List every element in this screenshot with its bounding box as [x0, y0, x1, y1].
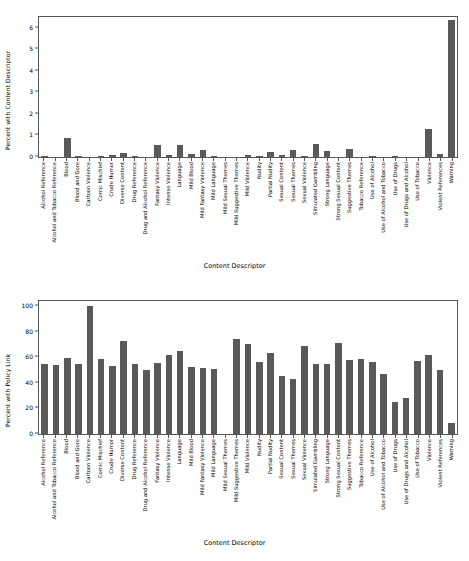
x-tick-label: Mild Fantasy Violence	[200, 162, 205, 218]
x-tick-mark	[361, 158, 362, 161]
bar-cell	[321, 17, 332, 157]
x-label-cell: Mild Fantasy Violence	[197, 439, 208, 495]
x-tick-cell	[265, 158, 276, 161]
bar-cell	[220, 17, 231, 157]
bar	[177, 351, 184, 434]
x-label-cell: Drug Reference	[129, 162, 140, 202]
bar-cell	[95, 301, 106, 434]
y-tick-label: 1	[11, 131, 33, 138]
bar-cell	[175, 301, 186, 434]
bar	[211, 156, 218, 157]
bar	[211, 369, 218, 434]
bar-cell	[276, 17, 287, 157]
x-tick-label: Strong Language	[325, 439, 330, 483]
x-tick-label: Suggestive Themes	[347, 439, 352, 490]
x-tick-label: Violence	[427, 439, 432, 461]
x-tick-label: Alcohol Reference	[41, 162, 46, 209]
x-tick-mark	[259, 158, 260, 161]
bar-cell	[107, 301, 118, 434]
x-axis-title-top: Content Descriptor	[0, 262, 469, 270]
x-tick-mark	[327, 158, 328, 161]
x-tick-label: Partial Nudity	[268, 162, 273, 197]
x-tick-mark	[259, 435, 260, 438]
x-tick-mark	[349, 435, 350, 438]
x-label-cell: Mild Sexual Themes	[220, 162, 231, 214]
bar-cell	[389, 301, 400, 434]
x-label-cell: Warning	[446, 439, 457, 460]
x-tick-label: Sexual Violence	[302, 439, 307, 480]
bar-series-bottom	[39, 301, 457, 434]
x-tick-cell	[83, 435, 94, 438]
x-tick-mark	[315, 435, 316, 438]
x-tick-mark	[247, 435, 248, 438]
bar-cell	[288, 17, 299, 157]
x-tick-mark	[191, 435, 192, 438]
x-tick-mark	[145, 435, 146, 438]
x-tick-mark	[191, 158, 192, 161]
x-label-cell: Comic Mischief	[95, 162, 106, 201]
x-tick-cell	[356, 158, 367, 161]
x-tick-label: Violence	[427, 162, 432, 184]
y-tick-label: 4	[11, 66, 33, 73]
x-tick-label: Blood and Gore	[75, 439, 80, 479]
x-tick-mark	[225, 158, 226, 161]
bar-cell	[401, 301, 412, 434]
x-tick-cell	[61, 158, 72, 161]
x-tick-cell	[151, 435, 162, 438]
bar	[87, 306, 94, 434]
x-tick-mark	[429, 158, 430, 161]
x-label-cell: Fantasy Violence	[151, 162, 162, 206]
x-tick-mark	[429, 435, 430, 438]
x-tick-mark	[293, 435, 294, 438]
x-label-cell: Use of Tobacco	[412, 162, 423, 201]
bar-cell	[401, 17, 412, 157]
x-tick-label: Mild Suggestive Themes	[234, 162, 239, 225]
bar	[132, 364, 139, 434]
bar-cell	[231, 17, 242, 157]
x-tick-cell	[401, 158, 412, 161]
y-tick-label: 5	[11, 45, 33, 52]
bar	[369, 156, 376, 157]
bar	[200, 150, 207, 157]
x-tick-mark	[77, 435, 78, 438]
x-label-cell: Mild Sexual Themes	[220, 439, 231, 491]
x-tick-cell	[185, 435, 196, 438]
x-tick-label: Blood and Gore	[75, 162, 80, 202]
x-label-cell: Warning	[446, 162, 457, 183]
x-tick-cell	[208, 435, 219, 438]
bar	[279, 376, 286, 434]
bar-cell	[378, 301, 389, 434]
bar	[98, 359, 105, 434]
x-tick-cell	[435, 158, 446, 161]
x-tick-cell	[435, 435, 446, 438]
x-tick-label: Use of Alcohol and Tobacco	[381, 162, 386, 233]
x-tick-cell	[378, 158, 389, 161]
x-label-cell: Use of Drugs and Alcohol	[401, 439, 412, 504]
x-tick-mark	[338, 435, 339, 438]
x-tick-cell	[220, 435, 231, 438]
bar-cell	[152, 17, 163, 157]
x-label-cell: Intense Violence	[163, 162, 174, 205]
bar	[313, 144, 320, 157]
x-tick-mark	[395, 158, 396, 161]
bar	[245, 344, 252, 434]
bar	[324, 151, 331, 157]
x-tick-label: Use of Alcohol	[370, 439, 375, 476]
bar	[324, 364, 331, 434]
x-axis-labels-bottom: Alcohol ReferenceAlcohol and Tobacco Ref…	[38, 439, 458, 520]
x-tick-mark	[66, 435, 67, 438]
x-tick-cell	[412, 435, 423, 438]
x-tick-mark	[157, 435, 158, 438]
x-tick-mark	[89, 158, 90, 161]
x-tick-cell	[185, 158, 196, 161]
bar	[392, 402, 399, 434]
bar-cell	[333, 17, 344, 157]
bar-cell	[208, 17, 219, 157]
x-tick-label: Tobacco Reference	[359, 162, 364, 211]
x-label-cell: Violence	[424, 439, 435, 461]
x-label-cell: Crude Humor	[106, 439, 117, 474]
x-label-cell: Strong Sexual Content	[333, 162, 344, 220]
x-label-cell: Alcohol and Tobacco Reference	[49, 162, 60, 243]
x-label-cell: Language	[174, 439, 185, 465]
x-tick-label: Nudity	[257, 162, 262, 179]
